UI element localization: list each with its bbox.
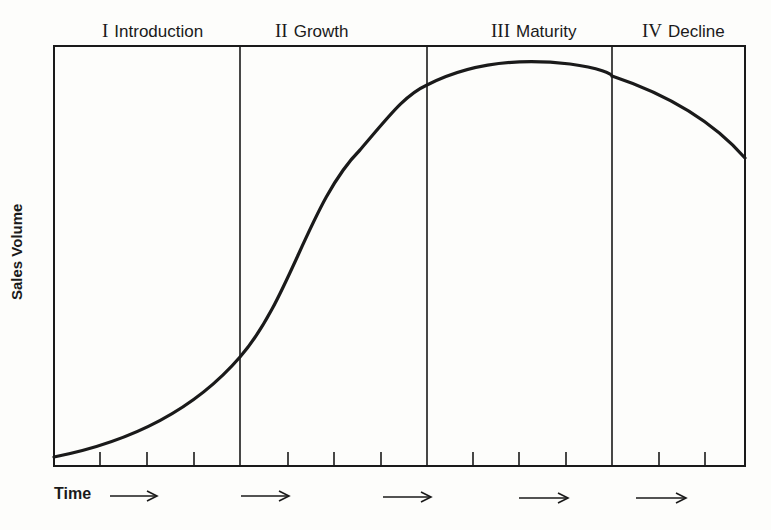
arrow-right-icon <box>241 491 289 501</box>
arrow-right-icon <box>383 492 431 502</box>
arrow-right-icon <box>519 493 568 503</box>
x-axis-label: Time <box>54 485 91 503</box>
sales-curve <box>54 62 745 457</box>
time-arrows <box>110 491 686 503</box>
plot-area <box>0 0 771 530</box>
y-axis-label: Sales Volume <box>8 204 25 300</box>
arrow-right-icon <box>636 493 686 503</box>
arrow-right-icon <box>110 491 157 501</box>
chart-frame <box>54 46 745 466</box>
x-ticks <box>100 452 705 466</box>
